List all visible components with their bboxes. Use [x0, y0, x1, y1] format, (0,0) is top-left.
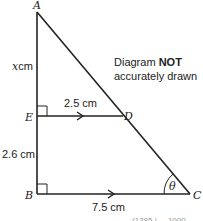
triangle-diagram: θ A B C D E xcm 2.5 cm 2.6 cm 7.5 cm Dia…: [0, 0, 203, 221]
vertex-d-label: D: [123, 110, 133, 123]
vertex-b-label: B: [24, 189, 33, 202]
footer-text: (1385 | ... 1000: [132, 216, 186, 221]
diagram-note-line1: Diagram NOT: [114, 56, 182, 68]
right-angle-e-icon: [37, 106, 47, 116]
measure-eb: 2.6 cm: [2, 148, 35, 160]
note-word-not: NOT: [159, 56, 183, 68]
vertex-a-label: A: [32, 0, 41, 12]
measure-ae: xcm: [12, 60, 33, 73]
measure-ae-unit: cm: [18, 60, 33, 72]
angle-theta-label: θ: [169, 180, 176, 193]
side-ac: [37, 12, 190, 194]
vertex-c-label: C: [193, 189, 202, 202]
vertex-e-label: E: [24, 111, 33, 124]
diagram-note-line2: accurately drawn: [114, 70, 197, 82]
right-angle-b-icon: [37, 184, 47, 194]
measure-ed: 2.5 cm: [64, 97, 97, 109]
note-word-diagram: Diagram: [114, 56, 156, 68]
measure-bc: 7.5 cm: [92, 201, 125, 213]
